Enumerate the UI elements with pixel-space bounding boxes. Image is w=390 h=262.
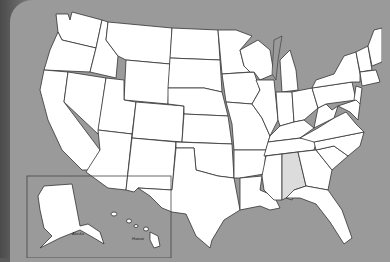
state-kansas[interactable] xyxy=(182,114,232,144)
state-florida[interactable] xyxy=(286,186,352,244)
state-hawaii[interactable] xyxy=(111,212,160,248)
state-arkansas[interactable] xyxy=(234,150,266,178)
state-massachusetts-ct-ri[interactable] xyxy=(360,70,380,86)
state-south-dakota[interactable] xyxy=(168,58,222,92)
state-michigan[interactable] xyxy=(280,50,298,92)
state-north-dakota[interactable] xyxy=(170,28,220,60)
hawaii-label: Hawaii xyxy=(132,236,144,241)
state-new-york[interactable] xyxy=(312,52,360,88)
state-new-mexico[interactable] xyxy=(126,138,176,192)
state-alaska[interactable] xyxy=(38,184,104,248)
alaska-label: Alaska xyxy=(71,231,85,236)
state-wyoming[interactable] xyxy=(124,60,170,104)
state-indiana[interactable] xyxy=(276,92,294,126)
state-colorado[interactable] xyxy=(132,102,184,142)
